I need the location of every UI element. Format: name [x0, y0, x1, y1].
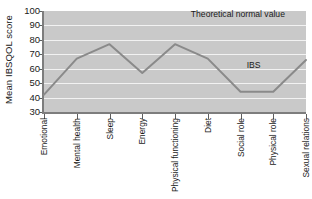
- x-axis-label-slot: Sleep: [103, 116, 117, 196]
- x-axis-category-label: Energy: [138, 118, 146, 145]
- x-axis-category-label: Sexual relations: [302, 118, 310, 178]
- chart-annotation: Theoretical normal value: [191, 10, 285, 19]
- x-axis-category-label: Social role: [236, 118, 244, 157]
- x-axis-label-slot: Physical role: [266, 116, 280, 196]
- x-axis-category-label: Mental health: [73, 118, 81, 168]
- x-axis-label-slot: Energy: [135, 116, 149, 196]
- x-axis-label-slot: Emotional: [37, 116, 51, 196]
- x-axis-label-slot: Diet: [201, 116, 215, 196]
- x-axis-label-slot: Sexual relations: [299, 116, 312, 196]
- y-axis-tick-label: 100: [24, 6, 40, 16]
- y-axis-tick-labels: 10090807060504030: [16, 6, 40, 118]
- x-axis-category-label: Physical functioning: [171, 118, 179, 192]
- x-axis-label-slot: Mental health: [70, 116, 84, 196]
- y-axis-title-text: Mean IBSQOL score: [3, 15, 14, 104]
- x-axis-label-slot: Physical functioning: [168, 116, 182, 196]
- x-axis-category-label: Physical role: [269, 118, 277, 165]
- ibsqol-line-chart: Mean IBSQOL score 10090807060504030 Theo…: [0, 0, 312, 199]
- plot-area: Theoretical normal valueIBS: [44, 11, 306, 112]
- x-axis-category-label: Sleep: [105, 118, 113, 139]
- x-axis-label-slot: Social role: [234, 116, 248, 196]
- series-ibs-line: [44, 11, 306, 112]
- x-axis-line: [42, 112, 306, 114]
- x-axis-category-label: Diet: [204, 118, 212, 133]
- x-axis-category-label: Emotional: [40, 118, 48, 155]
- chart-annotation: IBS: [247, 61, 261, 70]
- y-axis-title: Mean IBSQOL score: [0, 0, 16, 118]
- x-axis-category-labels: EmotionalMental healthSleepEnergyPhysica…: [44, 116, 306, 199]
